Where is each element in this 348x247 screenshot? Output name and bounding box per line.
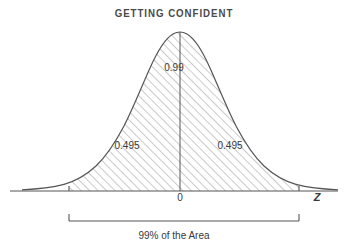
statistics-figure: GETTING CONFIDENT 0.99 0.495 0.495 0 Z 9 — [0, 0, 348, 247]
z-axis-variable-label: Z — [303, 191, 331, 203]
left-half-area-label: 0.495 — [97, 140, 157, 151]
normal-distribution-plot — [0, 0, 348, 247]
origin-tick-label: 0 — [160, 192, 200, 203]
right-half-area-label: 0.495 — [200, 140, 260, 151]
area-bracket — [69, 214, 299, 221]
bracket-caption: 99% of the Area — [0, 230, 348, 241]
peak-area-label: 0.99 — [0, 62, 348, 73]
